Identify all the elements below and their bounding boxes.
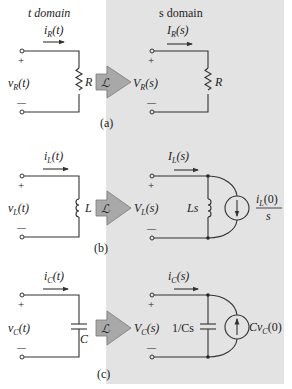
source-value-numerator-b: iL(0) (256, 192, 278, 208)
t-current-label-c: iC(t) (44, 269, 64, 285)
s-current-label-b: IL(s) (167, 149, 189, 165)
source-value-denominator-b: s (266, 209, 271, 223)
s-domain-header: s domain (159, 6, 203, 20)
terminal-top (20, 174, 24, 178)
caption-c: (c) (97, 367, 110, 381)
laplace-symbol: ℒ (101, 202, 110, 216)
minus-sign: — (16, 97, 27, 107)
element-label-b-s: Ls (186, 201, 199, 215)
laplace-symbol: ℒ (101, 76, 110, 90)
s-voltage-label-c: VC(s) (134, 321, 159, 337)
t-domain-header: t domain (28, 6, 70, 20)
t-voltage-label-b: vL(t) (8, 201, 29, 217)
terminal-top (150, 49, 154, 53)
minus-sign: — (16, 342, 27, 352)
terminal-bottom (150, 110, 154, 114)
s-current-label-a: IR(s) (166, 23, 189, 39)
terminal-bottom (150, 355, 154, 359)
terminal-bottom (150, 236, 154, 240)
t-current-label-b: iL(t) (44, 149, 63, 165)
plus-sign: + (148, 54, 154, 66)
plus-sign: + (148, 179, 154, 191)
element-label-a-s: R (214, 75, 223, 89)
element-label-c-t: C (80, 332, 89, 346)
terminal-top (150, 174, 154, 178)
element-label-a-t: R (84, 75, 93, 89)
plus-sign: + (148, 298, 154, 310)
plus-sign: + (18, 298, 24, 310)
minus-sign: — (146, 97, 157, 107)
terminal-top (20, 49, 24, 53)
s-voltage-label-a: VR(s) (133, 76, 158, 92)
t-current-label-a: iR(t) (44, 23, 64, 39)
t-wires-b (24, 176, 79, 237)
element-label-c-s: 1/Cs (172, 321, 194, 335)
caption-b: (b) (94, 241, 108, 255)
s-current-label-c: iC(s) (168, 269, 189, 285)
plus-sign: + (18, 179, 24, 191)
laplace-symbol: ℒ (101, 322, 110, 336)
minus-sign: — (146, 223, 157, 233)
caption-a: (a) (100, 116, 113, 130)
element-label-b-t: L (84, 201, 92, 215)
t-wires-c (24, 295, 79, 357)
t-voltage-label-c: vC(t) (8, 321, 30, 337)
terminal-bottom (20, 110, 24, 114)
t-wires-a (24, 51, 79, 112)
minus-sign: — (16, 222, 27, 232)
terminal-top (20, 293, 24, 297)
terminal-bottom (20, 355, 24, 359)
s-voltage-label-b: VL(s) (134, 201, 158, 217)
plus-sign: + (18, 54, 24, 66)
resistor-symbol (76, 68, 82, 90)
t-voltage-label-a: vR(t) (8, 76, 30, 92)
circuit-transform-diagram: t domain s domain iR(t) R + — vR(t) ℒ IR… (0, 0, 292, 389)
terminal-top (150, 293, 154, 297)
terminal-bottom (20, 235, 24, 239)
inductor-symbol (76, 199, 79, 217)
minus-sign: — (146, 342, 157, 352)
